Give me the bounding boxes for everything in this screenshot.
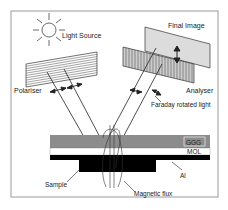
mol-layer [50, 148, 210, 155]
final-image-label: Final Image [168, 22, 205, 30]
light-source-label: Light Source [62, 32, 101, 40]
al-label: Al [180, 172, 186, 179]
mol-label: MOL [187, 148, 201, 155]
faraday-label: Faraday rotated light [151, 101, 211, 109]
sample-label: Sample [45, 181, 67, 189]
magnetic-flux-label: Magnetic flux [134, 190, 173, 198]
ggg-label: GGG [186, 139, 201, 146]
sample [79, 160, 156, 172]
mo-imaging-diagram: Light Source Polariser Final Image [0, 0, 228, 210]
analyser-label: Analyser [186, 87, 214, 95]
al-layer [50, 155, 210, 160]
polariser-label: Polariser [14, 87, 42, 94]
